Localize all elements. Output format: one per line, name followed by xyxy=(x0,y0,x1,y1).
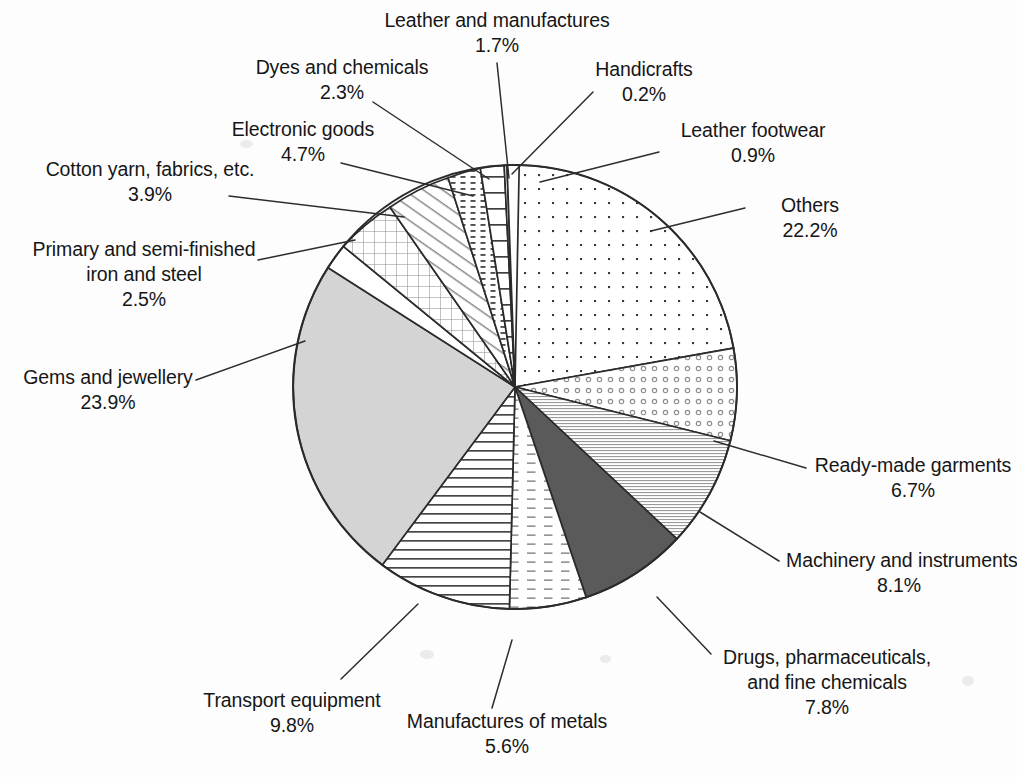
label-drugs-name-line1: Drugs, pharmaceuticals, xyxy=(723,646,931,668)
leader-line-manufactures-of-metals xyxy=(492,640,512,708)
label-others-pct: 22.2% xyxy=(750,218,870,243)
label-gems-and-jewellery: Gems and jewellery 23.9% xyxy=(20,365,196,415)
label-dyes-and-chemicals-name: Dyes and chemicals xyxy=(256,56,429,78)
label-ready-made-garments-pct: 6.7% xyxy=(812,478,1014,503)
leader-line-drugs xyxy=(657,597,711,654)
label-cotton-yarn: Cotton yarn, fabrics, etc. 3.9% xyxy=(34,157,266,207)
label-cotton-yarn-name: Cotton yarn, fabrics, etc. xyxy=(46,158,255,180)
label-dyes-and-chemicals-pct: 2.3% xyxy=(244,80,440,105)
label-transport-equipment-pct: 9.8% xyxy=(198,713,386,738)
leader-line-transport-equipment xyxy=(341,604,418,679)
label-gems-and-jewellery-name: Gems and jewellery xyxy=(23,366,192,388)
label-iron-and-steel-name-line1: Primary and semi-finished xyxy=(33,238,256,260)
label-others-name: Others xyxy=(781,194,839,216)
label-ready-made-garments: Ready-made garments 6.7% xyxy=(812,453,1014,503)
label-drugs: Drugs, pharmaceuticals, and fine chemica… xyxy=(716,645,938,720)
label-leather-footwear: Leather footwear 0.9% xyxy=(658,118,848,168)
label-drugs-pct: 7.8% xyxy=(716,695,938,720)
leader-line-machinery-and-instruments xyxy=(700,512,779,561)
label-dyes-and-chemicals: Dyes and chemicals 2.3% xyxy=(244,55,440,105)
leader-line-dyes-and-chemicals xyxy=(373,102,489,179)
label-transport-equipment: Transport equipment 9.8% xyxy=(198,688,386,738)
label-others: Others 22.2% xyxy=(750,193,870,243)
label-handicrafts: Handicrafts 0.2% xyxy=(578,57,710,107)
leader-line-others xyxy=(651,208,745,231)
pie-chart-figure: Leather and manufactures 1.7% Handicraft… xyxy=(0,0,1017,777)
label-manufactures-of-metals: Manufactures of metals 5.6% xyxy=(398,709,616,759)
label-iron-and-steel-name-line2: iron and steel xyxy=(24,262,264,287)
leader-line-gems-and-jewellery xyxy=(196,341,305,380)
leader-line-leather-footwear xyxy=(540,152,659,182)
label-machinery-and-instruments: Machinery and instruments 8.1% xyxy=(786,548,1012,598)
label-gems-and-jewellery-pct: 23.9% xyxy=(20,390,196,415)
label-iron-and-steel: Primary and semi-finished iron and steel… xyxy=(24,237,264,312)
pie-slices xyxy=(293,165,737,609)
label-electronic-goods-name: Electronic goods xyxy=(232,118,375,140)
label-handicrafts-name: Handicrafts xyxy=(595,58,693,80)
leader-line-ready-made-garments xyxy=(714,441,806,468)
label-machinery-and-instruments-pct: 8.1% xyxy=(786,573,1012,598)
label-leather-and-manufactures-name: Leather and manufactures xyxy=(384,9,609,31)
label-leather-and-manufactures: Leather and manufactures 1.7% xyxy=(368,8,626,58)
leader-line-leather-and-manufactures xyxy=(497,63,509,178)
label-ready-made-garments-name: Ready-made garments xyxy=(815,454,1011,476)
label-leather-footwear-name: Leather footwear xyxy=(681,119,826,141)
label-drugs-name-line2: and fine chemicals xyxy=(716,670,938,695)
label-manufactures-of-metals-pct: 5.6% xyxy=(398,734,616,759)
label-transport-equipment-name: Transport equipment xyxy=(203,689,380,711)
label-cotton-yarn-pct: 3.9% xyxy=(34,182,266,207)
label-manufactures-of-metals-name: Manufactures of metals xyxy=(407,710,607,732)
label-iron-and-steel-pct: 2.5% xyxy=(24,287,264,312)
label-handicrafts-pct: 0.2% xyxy=(578,82,710,107)
label-machinery-and-instruments-name: Machinery and instruments xyxy=(786,549,1017,571)
label-leather-footwear-pct: 0.9% xyxy=(658,143,848,168)
